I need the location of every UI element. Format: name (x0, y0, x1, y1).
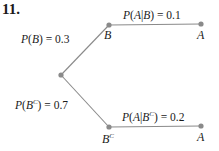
edge-Bc-to-A (109, 126, 201, 127)
node-label-Bc-sup: C (109, 132, 114, 140)
label-var: A (134, 9, 141, 21)
node-label-B-text: B (104, 28, 111, 42)
label-var: B (32, 33, 39, 45)
tree-diagram (0, 0, 219, 151)
node-label-A-top: A (197, 29, 204, 41)
label-value: 0.3 (55, 33, 69, 45)
node-label-A-top-text: A (197, 28, 204, 42)
edge-B-to-A (109, 24, 201, 25)
edge-root-to-Bc (61, 75, 109, 127)
edge-label-P-B: P(B) = 0.3 (21, 34, 69, 46)
probability-tree-figure: 11. B A BC A P(B) = 0.3 P(BC) = 0.7 P(A|… (0, 0, 219, 151)
root-node (58, 72, 63, 77)
label-fn: P (123, 9, 130, 21)
edge-label-P-A-given-B: P(A|B) = 0.1 (123, 10, 181, 22)
label-fn: P (15, 99, 22, 111)
node-label-B: B (104, 29, 111, 41)
label-value: 0.2 (170, 111, 184, 123)
label-eq: = (154, 9, 166, 21)
label-eq: = (43, 33, 55, 45)
node-label-A-bottom: A (197, 131, 204, 143)
node-label-Bc: BC (102, 133, 114, 145)
edge-label-P-A-given-Bc: P(A|BC) = 0.2 (122, 111, 184, 124)
label-eq: = (158, 111, 170, 123)
label-value: 0.7 (54, 99, 68, 111)
node-A-top (198, 21, 203, 26)
node-B (106, 22, 111, 27)
label-var: A (133, 111, 140, 123)
label-eq: = (41, 99, 53, 111)
label-fn: P (21, 33, 28, 45)
label-fn: P (122, 111, 129, 123)
label-var: B (26, 99, 33, 111)
node-A-bottom (198, 123, 203, 128)
edge-label-P-Bc: P(BC) = 0.7 (15, 99, 68, 112)
label-value: 0.1 (166, 9, 180, 21)
node-label-A-bottom-text: A (197, 130, 204, 144)
node-Bc (106, 124, 111, 129)
